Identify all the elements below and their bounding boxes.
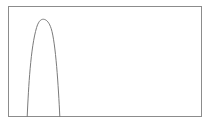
plot-border — [9, 7, 202, 117]
plot-canvas — [0, 0, 211, 129]
figure-container — [0, 0, 211, 129]
